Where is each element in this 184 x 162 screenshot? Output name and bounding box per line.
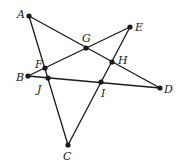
- label-j: J: [35, 83, 42, 96]
- point-g: [83, 45, 88, 50]
- point-i: [98, 79, 103, 84]
- label-g: G: [82, 32, 91, 45]
- point-a: [26, 13, 31, 18]
- label-d: D: [163, 83, 173, 96]
- label-b: B: [15, 71, 24, 84]
- label-a: A: [16, 8, 25, 21]
- label-f: F: [34, 58, 43, 71]
- label-h: H: [117, 54, 128, 67]
- labels: AEGHFBJIDC: [15, 8, 173, 162]
- pentagram-diagram: AEGHFBJIDC: [0, 0, 184, 162]
- label-e: E: [134, 21, 143, 34]
- point-j: [45, 75, 50, 80]
- label-i: I: [100, 87, 106, 100]
- point-e: [127, 24, 132, 29]
- point-f: [42, 65, 47, 70]
- point-c: [65, 142, 70, 147]
- label-c: C: [63, 150, 72, 162]
- point-h: [109, 59, 114, 64]
- segment-ce: [68, 27, 130, 145]
- point-b: [25, 73, 30, 78]
- point-d: [157, 85, 162, 90]
